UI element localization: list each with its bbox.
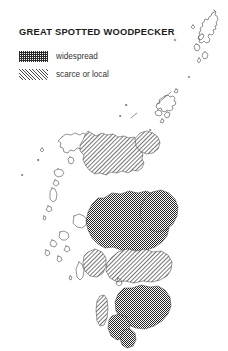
map-area-shetland-islands <box>174 10 218 63</box>
map-area-central-lowlands <box>106 249 172 283</box>
page-title: GREAT SPOTTED WOODPECKER <box>19 27 175 38</box>
legend-label-scarce-or-local: scarce or local <box>56 70 109 79</box>
map-area-southern-scotland <box>108 285 171 340</box>
map-area-north-west-highlands <box>80 131 144 175</box>
legend-item-widespread: widespread <box>19 50 139 63</box>
legend-swatch-scarce-icon <box>19 69 48 80</box>
map-legend: widespread scarce or local <box>19 50 139 86</box>
legend-label-widespread: widespread <box>56 52 98 61</box>
map-islet-foula <box>174 39 176 41</box>
legend-swatch-widespread-icon <box>19 51 48 62</box>
map-islet-orkney-outlier <box>188 76 190 78</box>
distribution-map-figure: GREAT SPOTTED WOODPECKER widespread scar… <box>0 0 228 351</box>
map-area-argyll-kintyre <box>83 249 108 326</box>
map-area-orkney-islands <box>155 76 190 123</box>
legend-item-scarce-or-local: scarce or local <box>19 68 139 81</box>
